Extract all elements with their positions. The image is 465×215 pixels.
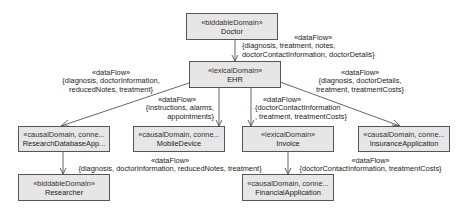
node-financial-application[interactable]: «causalDomain, conne... FinancialApplica… <box>242 174 334 201</box>
node-researcher[interactable]: «biddableDomain» Researcher <box>18 174 110 201</box>
node-mobile-device[interactable]: «causalDomain, conne... MobileDevice <box>133 126 225 152</box>
node-stereotype: «lexicalDomain» <box>243 130 333 139</box>
diagram-canvas: «biddableDomain» Doctor «lexicalDomain» … <box>0 0 465 215</box>
edge-label-invoice-financial: «dataFlow» {doctorContactInformation, tr… <box>293 157 448 174</box>
node-stereotype: «lexicalDomain» <box>190 66 280 75</box>
node-stereotype: «causalDomain, conne... <box>243 179 333 188</box>
edge-data-line: {doctorContactInformation, treatmentCost… <box>293 165 448 173</box>
edge-data-line: doctorContactInformation, doctorDetails} <box>242 51 384 59</box>
node-research-database-app[interactable]: «causalDomain, conne... ResearchDatabase… <box>18 126 110 152</box>
node-ehr[interactable]: «lexicalDomain» EHR <box>189 61 281 88</box>
edge-data-line: treatment, treatmentCosts} <box>310 86 410 94</box>
node-stereotype: «biddableDomain» <box>187 18 277 27</box>
edge-data-line: {diagnosis, doctorInformation, reducedNo… <box>69 165 271 173</box>
node-name: FinancialApplication <box>243 188 333 197</box>
edge-label-research-researcher: «dataFlow» {diagnosis, doctorInformation… <box>69 157 271 174</box>
node-stereotype: «causalDomain, conne... <box>359 130 449 139</box>
edge-label-ehr-mobile: «dataFlow» {instructions, alarms, appoin… <box>140 96 214 121</box>
node-name: InsuranceApplication <box>359 139 449 148</box>
node-stereotype: «causalDomain, conne... <box>19 130 109 139</box>
node-invoice[interactable]: «lexicalDomain» Invoice <box>242 126 334 152</box>
node-stereotype: «causalDomain, conne... <box>134 130 224 139</box>
edge-label-ehr-insurance: «dataFlow» {diagnosis, doctorDetails, tr… <box>310 69 410 94</box>
edge-data-line: appointments} <box>140 113 214 121</box>
edge-data-line: , treatment, treatmentCosts} <box>255 113 361 121</box>
edge-data-line: reducedNotes, treatment} <box>52 86 170 94</box>
node-name: Invoice <box>243 139 333 148</box>
node-insurance-application[interactable]: «causalDomain, conne... InsuranceApplica… <box>358 126 450 152</box>
edge-label-ehr-research: «dataFlow» {diagnosis, doctorInformation… <box>52 69 170 94</box>
node-name: ResearchDatabaseApp... <box>19 139 109 148</box>
node-name: EHR <box>190 75 280 84</box>
edge-label-doctor-ehr: «dataFlow» {diagnosis, treatment, notes,… <box>242 34 384 59</box>
node-name: MobileDevice <box>134 139 224 148</box>
node-name: Researcher <box>19 188 109 197</box>
edge-label-ehr-invoice: «dataFlow» {doctorContactInformation , t… <box>255 96 361 121</box>
node-stereotype: «biddableDomain» <box>19 179 109 188</box>
